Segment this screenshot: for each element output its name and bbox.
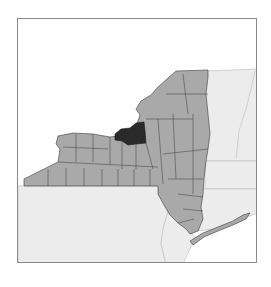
massachusetts-region <box>205 161 257 189</box>
pennsylvania-region <box>18 186 183 263</box>
new-york-county-map <box>18 19 257 263</box>
vermont-nh-region <box>205 69 257 161</box>
map-frame <box>17 18 257 263</box>
